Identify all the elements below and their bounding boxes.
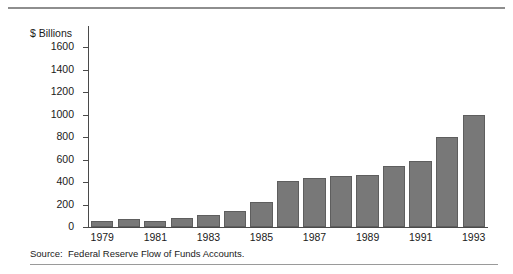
bar-slot [142,26,169,227]
bar-slot [275,26,302,227]
y-axis-tick-label: 400 [56,175,74,187]
bar[interactable] [277,181,299,227]
bar-slot [89,26,116,227]
y-axis-tick: 1200 [83,92,88,93]
bar[interactable] [303,178,325,228]
y-axis-tick: 600 [83,160,88,161]
top-divider [8,7,505,9]
bar[interactable] [436,137,458,227]
y-axis-tick-label: 1600 [51,40,74,52]
y-axis-tick: 1400 [83,70,88,71]
x-axis-tick-label: 1987 [290,231,340,244]
plot-area: 02004006008001000120014001600 [88,26,488,228]
y-axis-tick-label: 800 [56,130,74,142]
bar-slot [328,26,355,227]
y-axis-tick-label: 0 [68,220,74,232]
x-axis-tick-label: 1991 [396,231,446,244]
bar-slot [407,26,434,227]
bar[interactable] [409,161,431,227]
bar-slot [460,26,487,227]
bar[interactable] [91,221,113,227]
x-axis-line [88,227,488,228]
bar-slot [169,26,196,227]
bar[interactable] [224,211,246,227]
bar[interactable] [144,221,166,227]
bar[interactable] [383,166,405,227]
y-axis-tick-label: 1200 [51,85,74,97]
bar-chart-figure: $ Billions 02004006008001000120014001600… [0,0,513,274]
bar-slot [222,26,249,227]
y-axis-tick: 200 [83,205,88,206]
bar-series [89,26,488,227]
bar[interactable] [197,215,219,227]
bar[interactable] [171,218,193,227]
bar[interactable] [118,219,140,227]
y-axis-tick: 800 [83,137,88,138]
bar-slot [116,26,143,227]
bar-slot [301,26,328,227]
x-axis-tick-label: 1985 [236,231,286,244]
y-axis-tick: 1000 [83,115,88,116]
x-axis-tick-label: 1989 [343,231,393,244]
bar[interactable] [250,202,272,227]
x-axis-tick-label: 1979 [77,231,127,244]
bar-slot [248,26,275,227]
y-axis-tick: 1600 [83,47,88,48]
x-axis-tick-labels: 19791981198319851987198919911993 [88,231,488,245]
x-axis-tick-label: 1993 [449,231,499,244]
y-axis-tick-label: 200 [56,198,74,210]
bottom-divider [30,264,498,265]
x-axis-tick-label: 1983 [183,231,233,244]
bar-slot [195,26,222,227]
x-axis-tick-label: 1981 [130,231,180,244]
y-axis-title: $ Billions [30,27,72,39]
bar-slot [434,26,461,227]
bar[interactable] [356,175,378,227]
bar[interactable] [330,176,352,227]
y-axis-tick-label: 1400 [51,63,74,75]
y-axis-tick-label: 1000 [51,108,74,120]
source-note: Source: Federal Reserve Flow of Funds Ac… [30,248,244,260]
y-axis-tick: 0 [83,227,88,228]
bar[interactable] [463,115,485,228]
bar-slot [381,26,408,227]
bar-slot [354,26,381,227]
y-axis-tick-label: 600 [56,153,74,165]
y-axis-tick: 400 [83,182,88,183]
